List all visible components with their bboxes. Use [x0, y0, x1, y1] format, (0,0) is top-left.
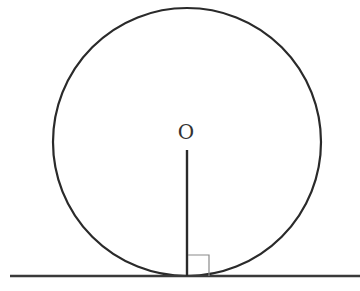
right-angle-marker: [188, 255, 209, 276]
center-label: O: [178, 120, 194, 144]
geometry-diagram: O: [0, 0, 360, 291]
